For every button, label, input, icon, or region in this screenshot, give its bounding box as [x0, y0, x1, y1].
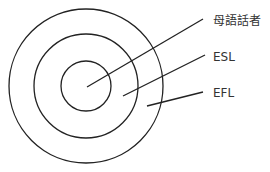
leader-line-native [87, 19, 203, 87]
leader-line-efl [147, 92, 203, 106]
label-efl: EFL [213, 86, 234, 100]
label-native-speaker: 母語話者 [213, 14, 261, 28]
leader-line-esl [123, 55, 205, 96]
inner-circle-native [61, 61, 111, 111]
middle-circle-esl [34, 34, 138, 138]
label-esl: ESL [213, 50, 235, 64]
outer-circle-efl [9, 9, 163, 163]
